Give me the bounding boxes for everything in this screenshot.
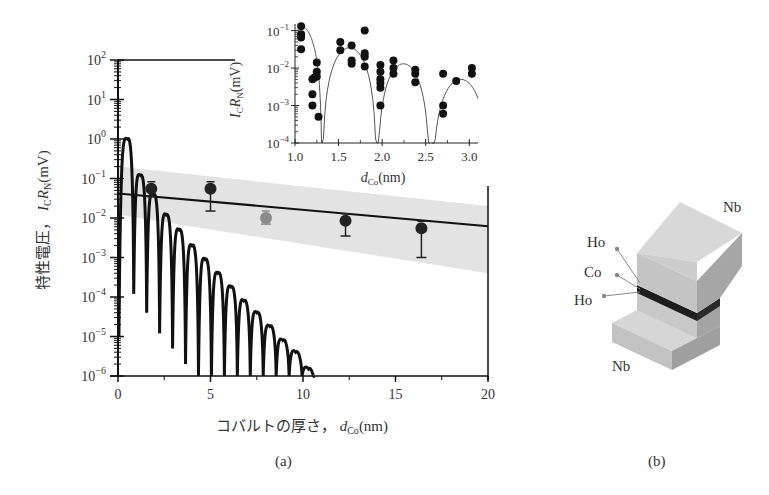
- y-tick-label: 10−5: [81, 326, 106, 345]
- inset-data-point: [361, 63, 369, 71]
- y-tick-label: 102: [87, 49, 106, 68]
- inset-data-point: [315, 113, 323, 121]
- ho-bottom-dot: [602, 294, 606, 298]
- y-tick-label: 10−3: [81, 247, 106, 266]
- co-dot: [615, 273, 619, 277]
- figure-canvas: 10210110010−110−210−310−410−510−6 051015…: [0, 0, 769, 495]
- inset-x-tick-label: 1.5: [330, 149, 346, 164]
- data-point: [145, 183, 157, 195]
- label-ho-top: Ho: [587, 234, 605, 250]
- x-tick-label: 5: [207, 387, 214, 402]
- y-tick-label: 10−2: [81, 207, 106, 226]
- inset-data-point: [361, 27, 369, 35]
- y-tick-label: 100: [87, 128, 106, 147]
- figure: 10210110010−110−210−310−410−510−6 051015…: [0, 0, 769, 495]
- label-nb-bottom: Nb: [612, 358, 630, 374]
- inset-data-point: [336, 38, 344, 46]
- y-tick-label: 10−4: [81, 286, 106, 305]
- inset-data-point: [313, 59, 321, 67]
- inset-chart: 10−110−210−310−4 1.01.52.02.53.0 dCo(nm)…: [228, 22, 482, 187]
- label-co: Co: [584, 264, 602, 280]
- inset-y-tick-label: 10−1: [266, 22, 289, 39]
- inset-x-tick-label: 1.0: [287, 149, 303, 164]
- panel-a-caption: (a): [275, 453, 292, 470]
- data-point: [205, 183, 217, 195]
- y-tick-label: 10−1: [81, 168, 106, 187]
- data-point: [260, 212, 272, 224]
- data-point: [340, 215, 352, 227]
- inset-data-point: [308, 90, 316, 98]
- x-tick-label: 0: [115, 387, 122, 402]
- inset-x-tick-label: 2.5: [418, 149, 434, 164]
- x-tick-label: 10: [296, 387, 310, 402]
- inset-x-tick-label: 3.0: [461, 149, 477, 164]
- y-tick-label: 101: [87, 89, 106, 108]
- inset-y-tick-labels: 10−110−210−310−4: [266, 22, 289, 151]
- inset-data-point: [468, 70, 476, 78]
- inset-data-point: [389, 70, 397, 78]
- inset-data-point: [376, 68, 384, 76]
- inset-data-point: [308, 102, 316, 110]
- inset-data-point: [297, 34, 305, 42]
- inset-data-point: [361, 53, 369, 61]
- inset-data-point: [313, 72, 321, 80]
- inset-data-point: [336, 46, 344, 54]
- inset-y-tick-label: 10−2: [266, 59, 289, 76]
- inset-data-point: [348, 60, 356, 68]
- data-point: [415, 222, 427, 234]
- inset-data-point: [376, 102, 384, 110]
- panel-b-caption: (b): [648, 453, 666, 470]
- inset-data-point: [439, 102, 447, 110]
- inset-data-point: [376, 84, 384, 92]
- inset-data-point: [297, 45, 305, 53]
- ho-bottom-leader: [604, 292, 640, 296]
- junction-diagram: Nb Ho Co Ho Nb: [574, 199, 742, 374]
- ho-top-dot: [615, 247, 619, 251]
- inset-x-axis-label: dCo(nm): [361, 170, 406, 187]
- inset-x-tick-labels: 1.01.52.02.53.0: [287, 149, 478, 164]
- label-nb-top: Nb: [723, 199, 741, 215]
- inset-y-tick-label: 10−3: [266, 97, 289, 114]
- main-y-axis-label: 特性電圧， ICRN(mV): [35, 150, 53, 289]
- ho-top-leader: [617, 249, 640, 283]
- main-x-tick-labels: 05101520: [115, 387, 496, 402]
- y-tick-label: 10−6: [81, 365, 106, 384]
- inset-data-point: [439, 70, 447, 78]
- inset-data-point: [297, 22, 305, 30]
- inset-data-point: [452, 77, 460, 85]
- inset-data-point: [411, 78, 419, 86]
- inset-data-point: [389, 56, 397, 64]
- main-y-tick-labels: 10210110010−110−210−310−410−510−6: [81, 49, 106, 384]
- label-ho-bottom: Ho: [574, 292, 592, 308]
- inset-data-point: [348, 42, 356, 50]
- inset-data-point: [411, 70, 419, 78]
- main-x-axis-label: コバルトの厚さ， dCo(nm): [216, 418, 388, 436]
- inset-data-point: [439, 110, 447, 118]
- inset-y-axis-label: ICRN(mV): [228, 62, 245, 119]
- inset-x-tick-label: 2.0: [374, 149, 390, 164]
- x-tick-label: 15: [389, 387, 403, 402]
- x-tick-label: 20: [481, 387, 495, 402]
